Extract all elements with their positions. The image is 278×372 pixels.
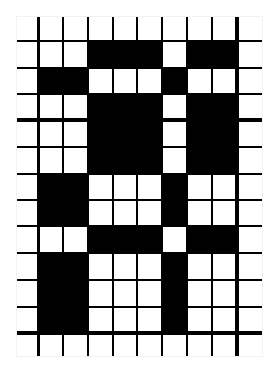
empty-cell (17, 280, 38, 307)
empty-cell (212, 333, 237, 356)
filled-cell (38, 174, 63, 200)
empty-cell (88, 174, 113, 200)
empty-cell (212, 17, 237, 41)
empty-cell (212, 200, 237, 226)
empty-cell (162, 333, 187, 356)
empty-cell (137, 200, 162, 226)
filled-cell (212, 41, 237, 68)
filled-cell (212, 147, 237, 174)
filled-cell (162, 174, 187, 200)
empty-cell (237, 280, 262, 307)
empty-cell (17, 333, 38, 356)
filled-cell (187, 41, 212, 68)
empty-cell (212, 307, 237, 333)
empty-cell (17, 41, 38, 68)
empty-cell (237, 253, 262, 280)
filled-cell (187, 94, 212, 120)
empty-cell (237, 120, 262, 147)
empty-cell (237, 41, 262, 68)
filled-cell (63, 253, 88, 280)
empty-cell (38, 147, 63, 174)
empty-cell (187, 280, 212, 307)
grid-horizontal-line (17, 67, 262, 69)
filled-cell (88, 147, 113, 174)
empty-cell (162, 17, 187, 41)
empty-cell (63, 147, 88, 174)
empty-cell (113, 333, 137, 356)
grid-horizontal-line (17, 225, 262, 227)
empty-cell (237, 68, 262, 94)
empty-cell (38, 41, 63, 68)
empty-cell (187, 17, 212, 41)
empty-cell (113, 253, 137, 280)
grid-horizontal-line (17, 252, 262, 254)
empty-cell (88, 68, 113, 94)
filled-cell (38, 307, 63, 333)
grid-horizontal-line (17, 173, 262, 175)
empty-cell (162, 94, 187, 120)
empty-cell (63, 41, 88, 68)
filled-cell (162, 307, 187, 333)
empty-cell (63, 17, 88, 41)
empty-cell (17, 68, 38, 94)
empty-cell (38, 94, 63, 120)
filled-cell (137, 147, 162, 174)
filled-cell (137, 226, 162, 253)
empty-cell (88, 17, 113, 41)
empty-cell (88, 200, 113, 226)
empty-cell (38, 17, 63, 41)
filled-cell (88, 226, 113, 253)
empty-cell (38, 120, 63, 147)
empty-cell (113, 307, 137, 333)
empty-cell (162, 147, 187, 174)
empty-cell (137, 17, 162, 41)
empty-cell (63, 333, 88, 356)
filled-cell (162, 280, 187, 307)
filled-cell (162, 253, 187, 280)
filled-cell (113, 147, 137, 174)
grid-horizontal-line (17, 306, 262, 308)
filled-cell (113, 226, 137, 253)
grid-horizontal-line (17, 146, 262, 148)
filled-cell (88, 120, 113, 147)
empty-cell (38, 226, 63, 253)
filled-cell (63, 174, 88, 200)
empty-cell (187, 200, 212, 226)
empty-cell (212, 68, 237, 94)
empty-cell (187, 333, 212, 356)
grid-horizontal-line (17, 93, 262, 95)
filled-cell (88, 41, 113, 68)
filled-cell (63, 68, 88, 94)
filled-cell (212, 226, 237, 253)
empty-cell (137, 307, 162, 333)
filled-cell (137, 94, 162, 120)
empty-cell (17, 174, 38, 200)
empty-cell (187, 307, 212, 333)
filled-cell (38, 280, 63, 307)
filled-cell (212, 94, 237, 120)
empty-cell (237, 147, 262, 174)
empty-cell (237, 174, 262, 200)
empty-cell (237, 94, 262, 120)
empty-cell (212, 174, 237, 200)
filled-cell (63, 280, 88, 307)
empty-cell (17, 94, 38, 120)
filled-cell (113, 41, 137, 68)
empty-cell (137, 253, 162, 280)
empty-cell (88, 280, 113, 307)
empty-cell (38, 333, 63, 356)
empty-cell (17, 307, 38, 333)
grid-horizontal-line (17, 199, 262, 201)
empty-cell (162, 41, 187, 68)
grid-horizontal-line (17, 118, 262, 122)
filled-cell (38, 68, 63, 94)
filled-cell (63, 200, 88, 226)
filled-cell (137, 41, 162, 68)
grid-horizontal-line (17, 331, 262, 335)
empty-cell (113, 280, 137, 307)
empty-cell (63, 94, 88, 120)
filled-cell (113, 120, 137, 147)
grid-horizontal-line (17, 279, 262, 281)
filled-cell (162, 68, 187, 94)
empty-cell (212, 280, 237, 307)
